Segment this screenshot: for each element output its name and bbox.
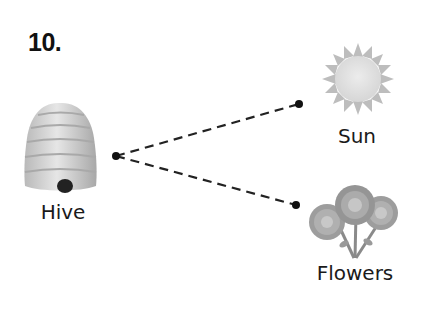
sun-endpoint-dot[interactable] bbox=[295, 100, 303, 108]
sun-icon bbox=[322, 43, 394, 115]
flowers-label: Flowers bbox=[300, 261, 410, 285]
hive-to-sun-line bbox=[116, 104, 299, 156]
connection-lines bbox=[116, 104, 299, 205]
hive-icon bbox=[24, 103, 96, 193]
hive-endpoint-dot[interactable] bbox=[112, 152, 120, 160]
hive-label: Hive bbox=[28, 200, 98, 224]
flowers-endpoint-dot[interactable] bbox=[292, 201, 300, 209]
sun-label: Sun bbox=[322, 124, 392, 148]
flowers-icon bbox=[309, 185, 398, 258]
hive-to-flowers-line bbox=[116, 156, 296, 205]
